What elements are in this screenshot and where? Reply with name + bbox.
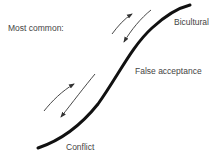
diagram-canvas: Most common: Bicultural False acceptance…: [0, 0, 223, 162]
lower-forward-arrow-icon: [44, 84, 74, 111]
lower-backward-arrow-icon: [61, 74, 95, 117]
label-conflict: Conflict: [66, 143, 94, 152]
label-false-acceptance: False acceptance: [135, 67, 202, 76]
upper-backward-arrow-icon: [124, 10, 151, 42]
label-bicultural: Bicultural: [174, 18, 209, 27]
heading-most-common: Most common:: [8, 24, 64, 33]
upper-forward-arrow-icon: [112, 14, 132, 34]
